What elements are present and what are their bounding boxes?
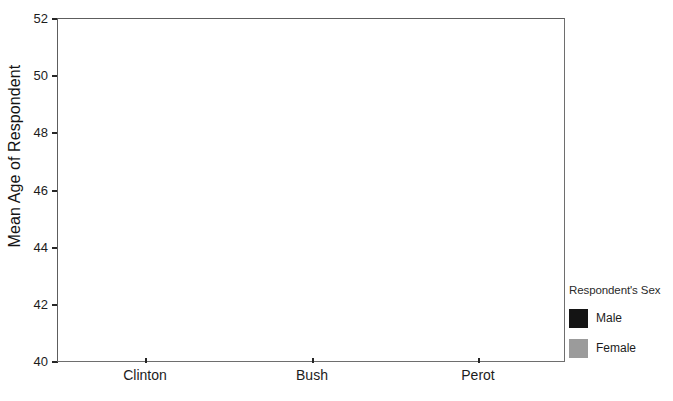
x-tick-label-perot: Perot — [418, 367, 538, 383]
bar-chart: Mean Age of Respondent 52 50 48 46 44 42… — [0, 0, 673, 401]
y-tick-label-48: 48 — [22, 125, 48, 141]
plot-frame — [57, 18, 565, 362]
legend-entry-female: Female — [569, 337, 673, 359]
y-tick-label-52: 52 — [22, 11, 48, 27]
y-tick-label-50-wrap: 50 — [20, 68, 48, 84]
legend-entry-male: Male — [569, 307, 673, 329]
plot-area — [58, 19, 564, 361]
y-tick-label-50: 50 — [22, 68, 48, 84]
x-tick-mark-bush — [312, 358, 314, 363]
y-tick-label-40-wrap: 40 — [20, 354, 48, 370]
legend-title: Respondent's Sex — [569, 284, 673, 296]
legend-swatch-female — [569, 339, 588, 358]
legend-label-male: Male — [596, 311, 622, 325]
x-tick-mark-clinton — [145, 358, 147, 363]
x-tick-mark-perot — [478, 358, 480, 363]
y-tick-label-46-wrap: 46 — [20, 183, 48, 199]
legend-swatch-male — [569, 309, 588, 328]
y-tick-label-46: 46 — [22, 183, 48, 199]
x-tick-label-bush: Bush — [252, 367, 372, 383]
y-tick-label-52-wrap: 52 — [20, 11, 48, 27]
legend: Respondent's Sex Male Female — [569, 284, 673, 367]
x-tick-label-clinton: Clinton — [85, 367, 205, 383]
legend-label-female: Female — [596, 341, 636, 355]
y-tick-label-44-wrap: 44 — [20, 240, 48, 256]
y-tick-label-42-wrap: 42 — [20, 297, 48, 313]
y-tick-label-48-wrap: 48 — [20, 125, 48, 141]
y-tick-label-44: 44 — [22, 240, 48, 256]
y-tick-label-40: 40 — [22, 354, 48, 370]
y-tick-label-42: 42 — [22, 297, 48, 313]
